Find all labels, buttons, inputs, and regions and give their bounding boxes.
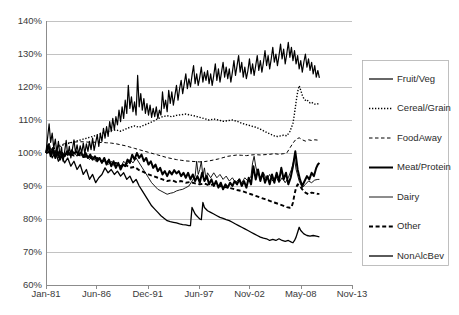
x-tick-label: Nov-13 — [337, 288, 368, 299]
chart-container: 60%70%80%90%100%110%120%130%140% Jan-81J… — [0, 0, 459, 315]
y-tick-label: 90% — [23, 180, 43, 191]
y-tick-label: 70% — [23, 246, 43, 257]
x-axis-tick-labels: Jan-81Jun-86Dec-91Jun-97Nov-02May-08Nov-… — [31, 288, 367, 299]
legend-label-nonalcbev: NonAlcBev — [397, 250, 444, 261]
legend-label-meat-protein: Meat/Protein — [397, 161, 451, 172]
y-tick-label: 100% — [18, 147, 43, 158]
series-line-meat-protein — [46, 145, 319, 190]
x-tick-label: Nov-02 — [234, 288, 265, 299]
series-paths-group — [46, 42, 319, 242]
x-tick-label: Dec-91 — [132, 288, 163, 299]
legend-entries-group: Fruit/VegCereal/GrainFoodAwayMeat/Protei… — [369, 73, 451, 261]
legend-label-other: Other — [397, 220, 421, 231]
y-tick-label: 140% — [18, 15, 43, 26]
line-chart: 60%70%80%90%100%110%120%130%140% Jan-81J… — [0, 0, 459, 315]
x-tick-label: Jun-97 — [184, 288, 213, 299]
x-tick-label: May-08 — [285, 288, 317, 299]
legend-label-fruit-veg: Fruit/Veg — [397, 73, 435, 84]
x-tick-label: Jan-81 — [31, 288, 60, 299]
legend-label-cereal-grain: Cereal/Grain — [397, 102, 451, 113]
series-line-fruit-veg — [46, 42, 319, 161]
y-axis-tick-labels: 60%70%80%90%100%110%120%130%140% — [18, 15, 43, 290]
y-tick-label: 130% — [18, 48, 43, 59]
x-tick-label: Jun-86 — [82, 288, 111, 299]
y-tick-label: 110% — [18, 114, 42, 125]
legend-label-foodaway: FoodAway — [397, 132, 442, 143]
series-line-cereal-grain — [46, 86, 319, 153]
legend-label-dairy: Dairy — [397, 191, 419, 202]
y-tick-label: 120% — [18, 81, 43, 92]
y-tick-label: 80% — [23, 213, 43, 224]
